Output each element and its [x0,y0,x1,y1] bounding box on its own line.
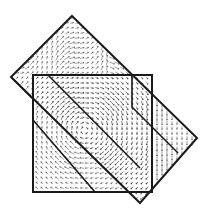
arrow-glyph [110,96,114,100]
arrow-glyph [101,61,103,65]
arrow-glyph [176,127,177,130]
arrow-glyph [81,77,84,78]
arrow-glyph [105,96,110,99]
arrow-glyph [106,182,109,183]
arrow-glyph [171,151,172,155]
arrow-glyph [105,106,109,110]
arrow-glyph [91,42,94,44]
arrow-glyph [91,57,94,59]
arrow-glyph [100,82,103,83]
arrow-glyph [46,147,48,150]
arrow-glyph [56,141,58,145]
arrow-glyph [75,117,79,120]
arrow-glyph [70,82,73,83]
arrow-glyph [136,187,138,189]
arrow-glyph [101,51,103,56]
arrow-glyph [115,151,118,156]
arrow-glyph [96,51,99,55]
arrow-glyph [55,92,59,95]
arrow-glyph [116,136,117,140]
arrow-glyph [146,156,148,161]
arrow-glyph [51,187,54,189]
arrow-glyph [90,153,93,154]
arrow-glyph [131,162,133,165]
arrow-glyph [95,102,99,104]
arrow-glyph [90,87,93,88]
arrow-glyph [131,137,132,140]
arrow-glyph [80,82,83,83]
arrow-glyph [161,126,162,129]
vector-field-diagram [0,0,216,213]
arrow-glyph [176,132,177,135]
arrow-glyph [136,82,138,84]
arrow-glyph [156,115,157,120]
arrow-glyph [80,187,83,188]
arrow-glyph [136,182,138,184]
arrow-glyph [70,32,74,34]
arrow-glyph [115,187,118,189]
arrow-glyph [141,166,143,169]
arrow-glyph [95,112,98,114]
arrow-glyph [131,127,132,130]
arrow-glyph [136,172,138,174]
arrow-glyph [126,72,129,74]
arrow-glyph [64,46,69,49]
arrow-glyph [70,172,74,174]
arrow-glyph [60,101,64,105]
arrow-glyph [65,146,69,150]
arrow-glyph [74,57,79,58]
arrow-glyph [95,177,98,178]
arrow-glyph [166,131,167,134]
arrow-glyph [71,121,73,125]
arrow-glyph [61,131,62,134]
arrow-glyph [70,92,75,94]
arrow-glyph [95,88,98,89]
arrow-glyph [100,97,104,99]
arrow-glyph [96,142,99,145]
arrow-glyph [115,96,119,100]
arrow-glyph [70,22,73,23]
arrow-glyph [55,167,59,170]
arrow-glyph [136,116,137,119]
arrow-glyph [141,132,142,135]
arrow-glyph [146,101,148,106]
arrow-glyph [100,188,103,189]
arrow-glyph [71,27,74,28]
arrow-glyph [69,52,75,54]
arrow-glyph [41,146,42,149]
arrow-glyph [85,142,88,143]
arrow-glyph [51,61,52,65]
arrow-glyph [91,132,92,135]
arrow-glyph [136,132,137,135]
arrow-glyph [65,151,70,155]
arrow-glyph [65,82,68,84]
arrow-glyph [96,46,99,49]
arrow-glyph [126,116,127,120]
arrow-glyph [166,166,167,171]
arrow-glyph [86,187,89,188]
arrow-glyph [131,111,132,114]
arrow-glyph [51,156,54,159]
arrow-glyph [75,27,78,28]
arrow-glyph [111,111,114,116]
arrow-glyph [156,165,157,170]
arrow-glyph [80,137,83,138]
arrow-glyph [46,51,47,54]
arrow-glyph [146,177,148,180]
arrow-glyph [85,92,88,93]
arrow-glyph [69,57,74,59]
arrow-glyph [71,131,72,134]
arrow-glyph [115,87,119,90]
arrow-glyph [156,136,157,140]
arrow-glyph [117,121,118,125]
arrow-glyph [75,92,80,93]
arrow-glyph [60,111,63,115]
arrow-glyph [136,137,137,140]
arrow-glyph [86,122,89,123]
arrow-glyph [51,96,54,99]
arrow-glyph [115,106,118,111]
arrow-glyph [70,87,74,89]
arrow-glyph [55,156,59,160]
arrow-glyph [31,72,33,75]
arrow-glyph [60,46,64,50]
